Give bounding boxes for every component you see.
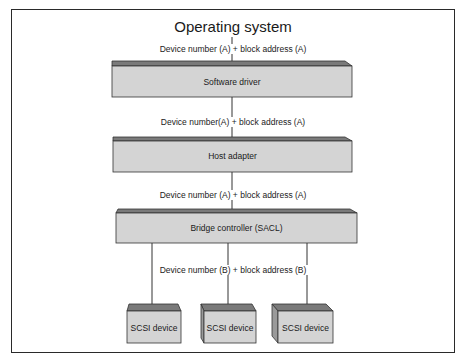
bridge-controller-label: Bridge controller (SACL): [116, 223, 357, 233]
connection-label-host-bridge: Device number (A) + block address (A): [0, 190, 466, 200]
diagram-shapes: [0, 0, 466, 363]
software-driver-label: Software driver: [112, 77, 352, 87]
scsi-device-2-label: SCSI device: [204, 323, 256, 333]
connection-label-bridge-devices: Device number (B) + block address (B): [0, 265, 466, 275]
connection-label-os-driver: Device number (A) + block address (A): [0, 44, 466, 54]
scsi-device-3-label: SCSI device: [278, 323, 333, 333]
scsi-device-1-label: SCSI device: [127, 323, 181, 333]
host-adapter-label: Host adapter: [113, 151, 352, 161]
connection-label-driver-host: Device number(A) + block address (A): [0, 117, 466, 127]
operating-system-title: Operating system: [0, 18, 466, 35]
